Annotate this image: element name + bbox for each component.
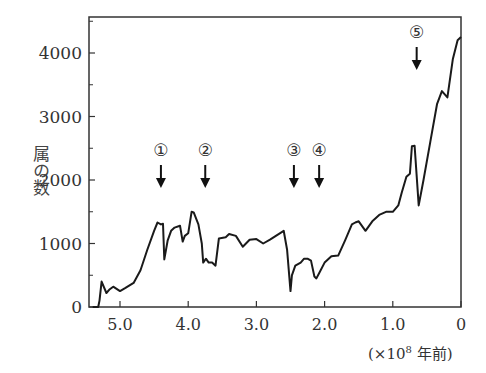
x-tick-label: 2.0 [312, 315, 337, 334]
y-tick-label: 0 [71, 297, 82, 317]
arrow-down-icon [200, 178, 210, 188]
annotation-label: ② [198, 140, 213, 160]
y-tick-label: 3000 [39, 107, 82, 127]
mass-extinction-chart: 010002000300040005.04.03.02.01.00①②③④⑤ [0, 0, 486, 373]
x-tick-label: 0 [456, 315, 466, 334]
genera-count-line [93, 37, 461, 307]
y-tick-label: 4000 [39, 43, 82, 63]
arrow-down-icon [412, 60, 422, 70]
x-tick-label: 3.0 [244, 315, 269, 334]
y-tick-label: 1000 [39, 234, 82, 254]
annotation-label: ① [153, 140, 168, 160]
arrow-down-icon [314, 178, 324, 188]
plot-frame [89, 17, 461, 307]
x-tick-label: 5.0 [107, 315, 132, 334]
annotation-label: ③ [286, 140, 301, 160]
arrow-down-icon [289, 178, 299, 188]
x-axis-unit-label: (×108 年前) [368, 342, 453, 363]
annotation-label: ④ [312, 140, 327, 160]
x-tick-label: 1.0 [380, 315, 405, 334]
annotation-label: ⑤ [409, 22, 424, 42]
arrow-down-icon [156, 178, 166, 188]
x-tick-label: 4.0 [175, 315, 200, 334]
y-axis-label: 属の数 [30, 145, 50, 196]
